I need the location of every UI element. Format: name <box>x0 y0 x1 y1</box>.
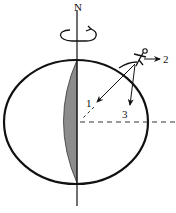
shaded-segment <box>64 60 78 183</box>
person-icon <box>134 49 147 66</box>
vector-1-label: 1 <box>86 97 92 109</box>
rotation-arrow-icon <box>60 26 96 41</box>
vector-3-label: 3 <box>122 108 128 120</box>
earth-rotation-diagram: N 2 1 3 <box>0 0 176 213</box>
north-label: N <box>74 1 82 13</box>
vector-2-label: 2 <box>163 53 169 65</box>
